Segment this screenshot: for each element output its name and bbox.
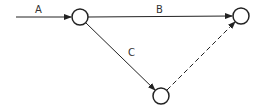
edge-b (88, 16, 232, 17)
label-c: C (128, 47, 135, 58)
node-3 (153, 88, 169, 104)
label-b: B (156, 4, 163, 15)
node-2 (233, 8, 249, 24)
network-diagram: A B C (0, 0, 257, 112)
label-a: A (35, 4, 42, 15)
node-1 (72, 9, 88, 25)
edge-dummy-dashed (167, 22, 235, 90)
edge-c (86, 23, 155, 90)
